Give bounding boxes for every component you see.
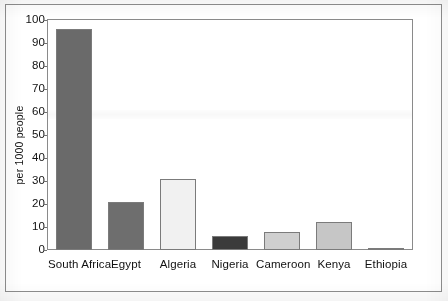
bar <box>264 232 300 250</box>
y-axis-tick-mark <box>43 204 47 205</box>
x-axis-tick-label: Egypt <box>100 258 152 271</box>
y-axis-title: per 1000 people <box>13 85 25 205</box>
bar-slot <box>308 20 360 250</box>
x-axis-tick-label: Kenya <box>308 258 360 271</box>
y-axis-tick-mark <box>43 43 47 44</box>
y-axis-tick-mark <box>43 250 47 251</box>
bar-slot <box>100 20 152 250</box>
bar-slot <box>152 20 204 250</box>
y-axis-tick-mark <box>43 135 47 136</box>
x-axis-tick-label: Algeria <box>152 258 204 271</box>
bar <box>56 29 92 250</box>
y-axis-tick-mark <box>43 66 47 67</box>
y-axis-tick-label: 100 <box>1 14 45 26</box>
bar-slot <box>204 20 256 250</box>
scanned-page: 1009080706050403020100 per 1000 people S… <box>0 0 448 301</box>
x-axis-tick-label: Cameroon <box>256 258 308 271</box>
bar-slot <box>360 20 412 250</box>
y-axis-tick-label: 10 <box>1 221 45 233</box>
bar <box>368 248 404 250</box>
bar-slot <box>48 20 100 250</box>
bar <box>316 222 352 250</box>
y-axis-tick-mark <box>43 89 47 90</box>
bar <box>108 202 144 250</box>
x-axis-tick-labels: South AfricaEgyptAlgeriaNigeriaCameroonK… <box>48 258 412 276</box>
bar-slot <box>256 20 308 250</box>
y-axis-tick-mark <box>43 181 47 182</box>
y-axis-tick-mark <box>43 158 47 159</box>
x-axis-tick-label: Ethiopia <box>360 258 412 271</box>
y-axis-tick-mark <box>43 227 47 228</box>
bar <box>212 236 248 250</box>
bar-series <box>48 20 412 250</box>
x-axis-tick-label: Nigeria <box>204 258 256 271</box>
y-axis-tick-mark <box>43 112 47 113</box>
x-axis-tick-label: South Africa <box>48 258 100 271</box>
bar-chart: 1009080706050403020100 per 1000 people S… <box>0 0 448 301</box>
y-axis-tick-mark <box>43 20 47 21</box>
y-axis-tick-label: 80 <box>1 60 45 72</box>
y-axis-tick-label: 0 <box>1 244 45 256</box>
bar <box>160 179 196 250</box>
y-axis-tick-label: 90 <box>1 37 45 49</box>
